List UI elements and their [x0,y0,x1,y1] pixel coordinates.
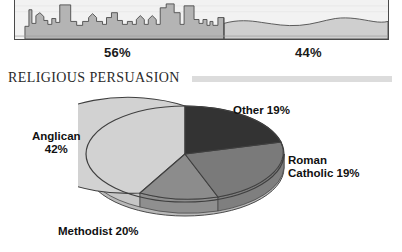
urban-percentage-label: 56% [104,45,131,60]
pie-label-other: Other 19% [233,104,290,117]
rural-percentage-label: 44% [295,45,322,60]
pie-label-anglican: Anglican 42% [32,130,81,156]
pie-label-methodist-line1: Methodist 20% [58,225,139,238]
heading-rule [192,76,392,82]
pie-label-anglican-line2: 42% [32,143,81,156]
pie-label-roman-line1: Roman [288,154,360,167]
pie-label-roman-catholic: Roman Catholic 19% [288,154,360,180]
religious-persuasion-pie-chart: Other 19% Roman Catholic 19% Anglican 42… [0,92,402,252]
pie-label-anglican-line1: Anglican [32,130,81,143]
pie-label-roman-line2: Catholic 19% [288,167,360,180]
urban-rural-profile-graphic [15,0,388,39]
section-heading: RELIGIOUS PERSUASION [8,70,180,86]
pie-label-other-line1: Other 19% [233,104,290,117]
urban-rural-panel [14,0,389,40]
pie-label-methodist: Methodist 20% [58,225,139,238]
